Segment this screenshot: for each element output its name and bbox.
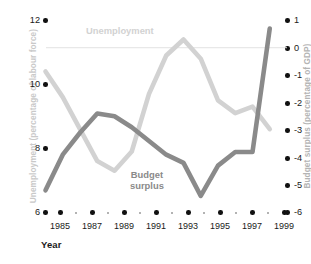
plot-area [0,0,311,264]
series-label-unemployment: Unemployment [86,26,154,37]
series-label-budget-surplus: Budget surplus [130,170,164,191]
chart-container: Unemployment (percentage of labour force… [0,0,311,264]
